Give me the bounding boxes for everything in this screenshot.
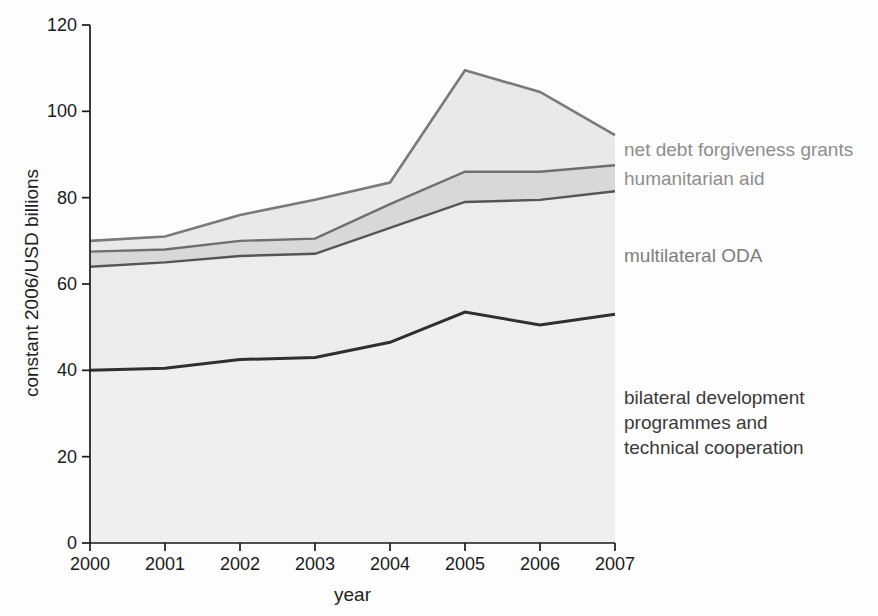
x-tick-label-2007: 2007 [595,554,635,574]
x-tick-label-2002: 2002 [220,554,260,574]
x-tick-label-2003: 2003 [295,554,335,574]
y-tick-label-60: 60 [57,274,77,294]
x-tick-label-2005: 2005 [445,554,485,574]
label-bilateral-line-1: bilateral development [624,385,805,410]
stacked-areas [90,70,615,543]
label-bilateral-line-2: programmes and [624,410,805,435]
y-axis-title: constant 2006/USD billions [21,143,43,423]
x-tick-label-2004: 2004 [370,554,410,574]
label-net-debt-forgiveness-grants: net debt forgiveness grants [624,137,853,162]
y-tick-label-40: 40 [57,360,77,380]
chart-canvas: 0204060801001202000200120022003200420052… [0,0,878,616]
y-tick-label-20: 20 [57,447,77,467]
y-tick-label-120: 120 [47,15,77,35]
x-tick-label-2000: 2000 [70,554,110,574]
x-axis-title: year [90,584,615,606]
label-bilateral-development: bilateral development programmes and tec… [624,385,805,460]
figure-stacked-area-chart: 0204060801001202000200120022003200420052… [0,0,878,616]
x-tick-label-2001: 2001 [145,554,185,574]
y-tick-label-0: 0 [67,533,77,553]
label-bilateral-line-3: technical cooperation [624,435,805,460]
y-tick-label-80: 80 [57,188,77,208]
label-multilateral-oda: multilateral ODA [624,243,762,268]
x-tick-label-2006: 2006 [520,554,560,574]
label-humanitarian-aid: humanitarian aid [624,166,764,191]
y-tick-label-100: 100 [47,101,77,121]
